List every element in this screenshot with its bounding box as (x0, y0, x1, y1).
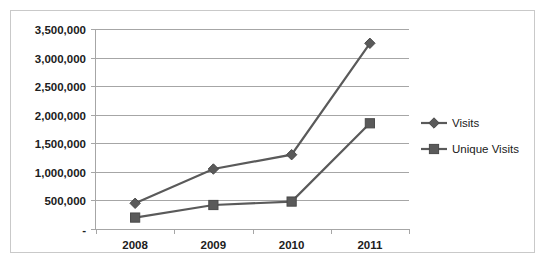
x-axis-tick-labels: 2008200920102011 (122, 239, 383, 251)
chart-legend: VisitsUnique Visits (421, 117, 519, 155)
x-axis-label: 2009 (201, 239, 227, 251)
y-axis-label: 1,500,000 (35, 138, 86, 150)
data-series-group (130, 38, 375, 222)
x-axis-label: 2011 (357, 239, 383, 251)
square-marker (131, 213, 140, 222)
series-line-visits (135, 43, 370, 203)
y-axis-tick-labels: -500,0001,000,0001,500,0002,000,0002,500… (35, 24, 86, 236)
x-axis-label: 2008 (122, 239, 148, 251)
line-chart: -500,0001,000,0001,500,0002,000,0002,500… (11, 11, 534, 252)
y-axis-label: 500,000 (44, 195, 86, 207)
y-axis-label: 3,000,000 (35, 53, 86, 65)
legend-square-marker (429, 144, 438, 153)
y-axis-label: 1,000,000 (35, 167, 86, 179)
y-axis-label: - (82, 224, 86, 236)
legend-diamond-marker (429, 118, 439, 128)
y-axis-label: 2,500,000 (35, 81, 86, 93)
series-line-unique-visits (135, 123, 370, 217)
square-marker (209, 200, 218, 209)
x-axis-label: 2010 (279, 239, 305, 251)
square-marker (365, 119, 374, 128)
diamond-marker (130, 198, 140, 208)
chart-container: -500,0001,000,0001,500,0002,000,0002,500… (10, 10, 535, 253)
legend-label-unique-visits: Unique Visits (452, 143, 519, 155)
square-marker (287, 197, 296, 206)
y-axis-label: 2,000,000 (35, 110, 86, 122)
legend-label-visits: Visits (452, 117, 480, 129)
y-axis-label: 3,500,000 (35, 24, 86, 36)
